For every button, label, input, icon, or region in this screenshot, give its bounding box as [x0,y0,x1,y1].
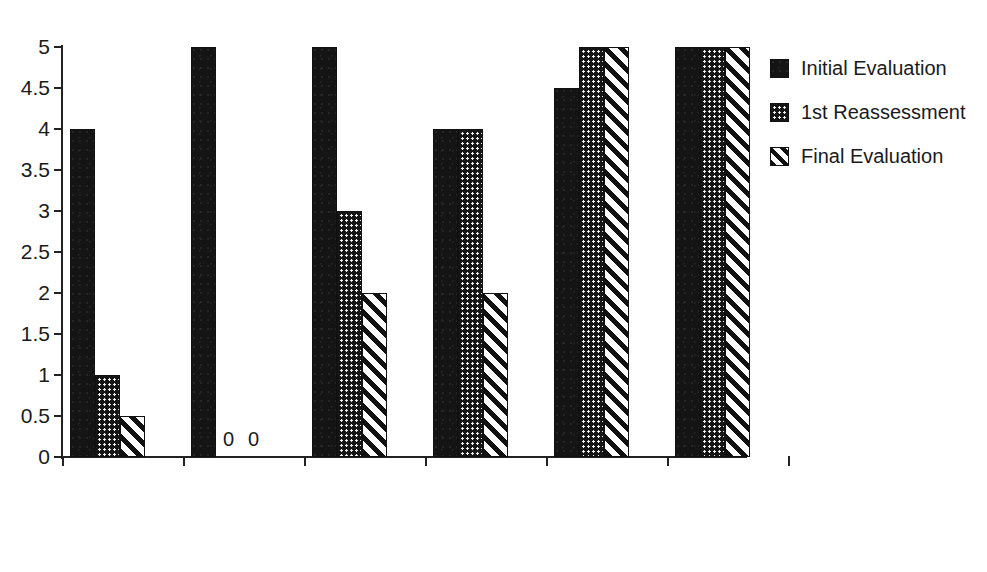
bar-group-bars [675,47,750,457]
bar-group-bars [312,47,387,457]
x-axis-tick [62,456,64,466]
y-axis-tick-label-text: 1.5 [2,323,50,344]
y-axis-tick-label: 2 [0,282,50,303]
x-axis-tick [304,456,306,466]
y-axis-tick-label: 3 [0,200,50,221]
bar [312,47,337,457]
y-axis-tick-label-text: 2.5 [2,241,50,262]
bar-group-bars [191,47,266,457]
legend-item: Final Evaluation [770,134,985,178]
bar-group-bars [433,47,508,457]
bar [554,88,579,457]
bar [604,47,629,457]
legend-item-label: Initial Evaluation [801,58,947,78]
x-axis-category-label: Pain level [83,470,187,572]
bar [95,375,120,457]
y-axis-tick-label-text: 1 [2,364,50,385]
y-axis-tick-label-text: 3.5 [2,159,50,180]
x-axis-category-label: Muscle strength [567,470,671,572]
x-axis-tick [788,456,790,466]
y-axis-tick-label: 0.5 [0,405,50,426]
bar [362,293,387,457]
bar [700,47,725,457]
y-axis-tick-label-text: 5 [2,36,50,57]
y-axis-tick-label: 3.5 [0,159,50,180]
plot-area [62,47,745,457]
y-axis-tick-label-text: 3 [2,200,50,221]
bar [725,47,750,457]
x-axis-tick [667,456,669,466]
legend-swatch-dotted-icon [770,103,789,122]
bar [579,47,604,457]
bar-group-bars [70,47,145,457]
bar [70,129,95,457]
y-axis-tick-label: 2.5 [0,241,50,262]
x-axis-category-label: Difficulty in/out of car [325,470,429,572]
y-axis-tick-label: 1.5 [0,323,50,344]
y-axis-tick-label: 5 [0,36,50,57]
bar [337,211,362,457]
y-axis-tick-label-text: 2 [2,282,50,303]
y-axis-tick-label-text: 4.5 [2,77,50,98]
y-axis-tick-label-text: 0.5 [2,405,50,426]
x-axis-tick [183,456,185,466]
x-axis-category-label: Difficulty with bathtub and stairs [446,470,550,572]
bar [458,129,483,457]
y-axis-tick-label-text: 4 [2,118,50,139]
bar-value-label: 0 [216,429,241,449]
y-axis-tick-label-text: 0 [2,446,50,467]
bar [191,47,216,457]
legend-item-label: 1st Reassessment [801,102,966,122]
x-axis-tick [546,456,548,466]
bar [433,129,458,457]
legend-item: Initial Evaluation [770,46,985,90]
y-axis-tick-label: 4.5 [0,77,50,98]
legend-swatch-solid-icon [770,59,789,78]
x-axis-category-label: Standing calcaneal inversion [688,470,792,572]
y-axis-tick-label: 0 [0,446,50,467]
y-axis-tick-label: 4 [0,118,50,139]
legend-swatch-hatch-icon [770,147,789,166]
legend-item: 1st Reassessment [770,90,985,134]
bar-group-bars [554,47,629,457]
chart-legend: Initial Evaluation1st ReassessmentFinal … [770,46,985,178]
bar-value-label: 0 [241,429,266,449]
legend-item-label: Final Evaluation [801,146,943,166]
x-axis-category-label: Knee extension [204,470,308,572]
y-axis-tick-label: 1 [0,364,50,385]
bar [675,47,700,457]
x-axis-tick [425,456,427,466]
bar [483,293,508,457]
bar-chart: 00.511.522.533.544.55 00 Pain levelKnee … [0,0,987,572]
bar [120,416,145,457]
